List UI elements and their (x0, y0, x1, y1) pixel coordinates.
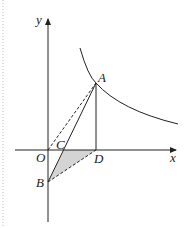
point-c-label: C (56, 137, 65, 152)
coordinate-diagram: y x A O C D B (0, 0, 192, 228)
point-o-label: O (36, 150, 46, 165)
point-d-label: D (93, 151, 104, 166)
point-a-label: A (97, 70, 106, 85)
shaded-triangle-bcd (48, 150, 96, 182)
segment-ab (48, 83, 96, 182)
y-axis-label: y (34, 12, 42, 27)
point-b-label: B (36, 175, 44, 190)
x-axis-label: x (169, 150, 176, 165)
